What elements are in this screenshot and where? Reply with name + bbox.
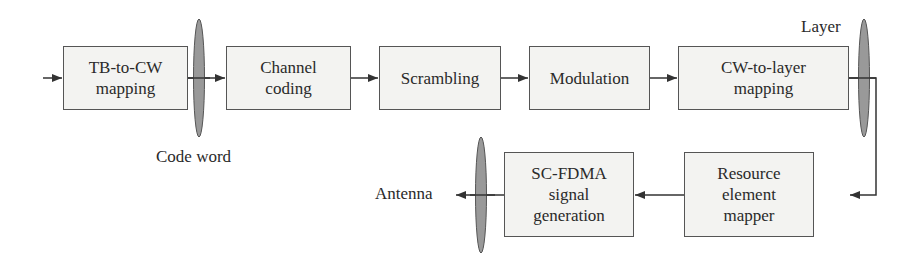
block-sc-fdma: SC-FDMA signal generation	[504, 152, 634, 237]
block-scrambling: Scrambling	[379, 46, 501, 110]
block-resource-element-mapper: Resource element mapper	[684, 152, 814, 237]
block-tb-to-cw: TB-to-CW mapping	[63, 46, 188, 110]
block-cw-to-layer: CW-to-layer mapping	[678, 46, 849, 110]
code-word-label: Code word	[156, 147, 231, 167]
antenna-label: Antenna	[375, 184, 433, 204]
layer-label: Layer	[801, 17, 841, 37]
block-modulation: Modulation	[529, 46, 650, 110]
block-channel-coding: Channel coding	[226, 46, 351, 110]
